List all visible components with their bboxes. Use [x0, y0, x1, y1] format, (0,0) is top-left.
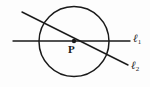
- line-label-l2: ℓ2: [131, 60, 139, 73]
- script-l-glyph-l1: ℓ: [133, 32, 138, 44]
- line-label-l1: ℓ1: [133, 33, 141, 46]
- script-l-glyph-l2: ℓ: [131, 59, 136, 71]
- subscript-l2: 2: [136, 65, 140, 73]
- point-label-P: P: [68, 44, 75, 55]
- geometry-canvas: [0, 0, 150, 87]
- line-l2: [22, 12, 128, 65]
- subscript-l1: 1: [138, 38, 142, 46]
- geometry-figure: P ℓ1 ℓ2: [0, 0, 150, 87]
